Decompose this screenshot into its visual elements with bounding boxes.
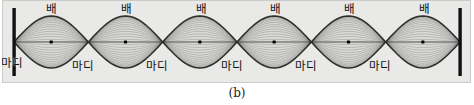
antinode-label-4: 배: [270, 3, 281, 15]
antinode-label-6: 배: [419, 3, 430, 15]
antinode-label-1: 배: [46, 3, 57, 15]
node-label-1: 마디: [2, 57, 22, 69]
antinode-label-2: 배: [121, 3, 132, 15]
standing-wave-figure: 배 배 배 배 배 배 마디 마디 마디 마디 마디 마디 (b): [0, 0, 474, 105]
wave-illustration-panel: 배 배 배 배 배 배 마디 마디 마디 마디 마디 마디: [2, 0, 471, 83]
antinode-label-5: 배: [344, 3, 355, 15]
node-label-4: 마디: [221, 60, 242, 72]
right-wall-bar: [458, 8, 461, 76]
node-label-5: 마디: [295, 60, 316, 72]
node-label-6: 마디: [369, 60, 390, 72]
figure-caption: (b): [0, 86, 474, 100]
antinode-label-3: 배: [196, 3, 207, 15]
node-label-3: 마디: [146, 60, 167, 72]
node-label-2: 마디: [72, 60, 93, 72]
